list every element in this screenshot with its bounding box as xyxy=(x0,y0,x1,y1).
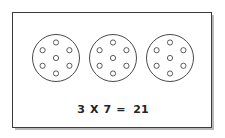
dot xyxy=(110,55,115,60)
dot xyxy=(40,48,45,53)
dot xyxy=(181,63,186,68)
dot xyxy=(40,63,45,68)
figure-root: 3 X 7 = 21 xyxy=(0,0,225,138)
dot xyxy=(124,48,129,53)
dot xyxy=(97,63,102,68)
dot xyxy=(53,55,58,60)
group-circle-3 xyxy=(145,33,195,83)
dot xyxy=(167,71,172,76)
equation-operator: X xyxy=(90,103,98,116)
frame-shadow-bottom xyxy=(15,128,214,130)
dot xyxy=(124,63,129,68)
figure-border-frame: 3 X 7 = 21 xyxy=(12,12,212,128)
dot xyxy=(67,63,72,68)
dot xyxy=(53,71,58,76)
equation-equals-sign: = xyxy=(116,103,125,116)
dot xyxy=(154,48,159,53)
dot xyxy=(167,55,172,60)
groups-row xyxy=(13,27,213,89)
equation-multiplier: 7 xyxy=(103,103,111,116)
dot xyxy=(97,48,102,53)
dot xyxy=(154,63,159,68)
dot xyxy=(110,40,115,45)
dot xyxy=(67,48,72,53)
group-circle-1 xyxy=(31,33,81,83)
equation-row: 3 X 7 = 21 xyxy=(13,99,213,119)
group-circle-2 xyxy=(88,33,138,83)
equation-product: 21 xyxy=(133,103,148,116)
dot xyxy=(181,48,186,53)
dot xyxy=(53,40,58,45)
dot xyxy=(167,40,172,45)
equation-multiplicand: 3 xyxy=(77,103,85,116)
dot xyxy=(110,71,115,76)
